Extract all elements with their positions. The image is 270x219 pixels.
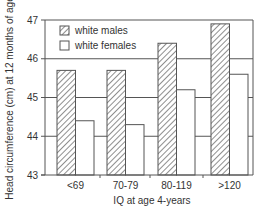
x-tick-label: 70-79	[113, 180, 139, 191]
y-tick-label: 44	[27, 131, 39, 142]
x-tick-label: 80-119	[161, 180, 192, 191]
legend-swatch-hatched	[60, 26, 69, 35]
y-tick-label: 45	[27, 92, 39, 103]
bar-male	[57, 70, 76, 175]
bar-female	[177, 90, 196, 175]
y-tick-label: 43	[27, 170, 39, 181]
bar-chart: 4344454647<6970-7980-119>120 white males…	[0, 0, 270, 219]
bar-male	[158, 43, 177, 175]
x-tick-label: >120	[218, 180, 241, 191]
y-tick-label: 46	[27, 53, 39, 64]
y-tick-label: 47	[27, 15, 39, 26]
legend-swatch-open	[60, 41, 69, 50]
x-tick-label: <69	[67, 180, 84, 191]
bar-female	[126, 125, 145, 175]
legend-label: white males	[74, 25, 128, 36]
bar-female	[76, 121, 95, 175]
x-axis-title: IQ at age 4-years	[113, 195, 190, 206]
legend-label: white females	[74, 40, 136, 51]
legend: white maleswhite females	[60, 25, 136, 51]
y-axis-title: Head circumference (cm) at 12 months of …	[4, 0, 15, 200]
bar-male	[211, 24, 230, 175]
bar-male	[107, 70, 126, 175]
bar-female	[230, 74, 249, 175]
